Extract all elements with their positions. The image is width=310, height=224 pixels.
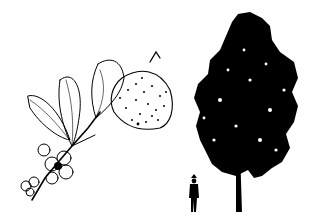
branch-sketch xyxy=(21,52,172,200)
tree-silhouette xyxy=(194,12,298,212)
botanical-illustration xyxy=(0,0,310,224)
flower-center xyxy=(54,162,62,170)
fruit-stipple xyxy=(119,77,167,125)
illustration-svg xyxy=(0,0,310,224)
human-figure-icon xyxy=(189,174,199,212)
